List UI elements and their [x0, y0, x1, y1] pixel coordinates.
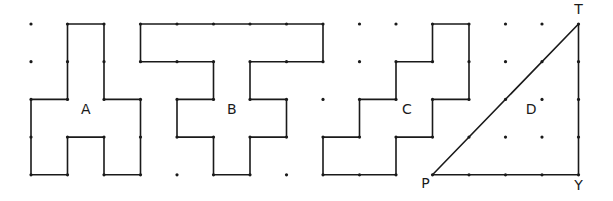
grid-dot: [394, 22, 397, 25]
vertex-label-y: Y: [573, 177, 583, 193]
grid-dot: [29, 60, 32, 63]
shape-label-a: A: [81, 101, 91, 117]
vertex-label-p: P: [421, 175, 429, 191]
shape-label-d: D: [526, 101, 537, 117]
grid-dot: [540, 22, 543, 25]
grid-dot: [504, 22, 507, 25]
shape-a: [31, 24, 141, 175]
grid-dot: [540, 136, 543, 139]
grid-dot: [358, 60, 361, 63]
shape-c: [323, 24, 469, 175]
grid-dot: [285, 173, 288, 176]
grid-dot: [540, 98, 543, 101]
grid-dot: [29, 22, 32, 25]
shapes: [31, 24, 579, 175]
geometry-diagram: ABCDTPY: [0, 0, 613, 201]
grid-dot: [175, 173, 178, 176]
grid-dot: [358, 22, 361, 25]
grid-dot: [504, 60, 507, 63]
shape-label-b: B: [227, 101, 237, 117]
shape-b: [141, 24, 324, 175]
vertex-label-t: T: [573, 1, 583, 17]
grid-dot: [321, 98, 324, 101]
shape-label-c: C: [402, 101, 412, 117]
grid-dot: [504, 136, 507, 139]
